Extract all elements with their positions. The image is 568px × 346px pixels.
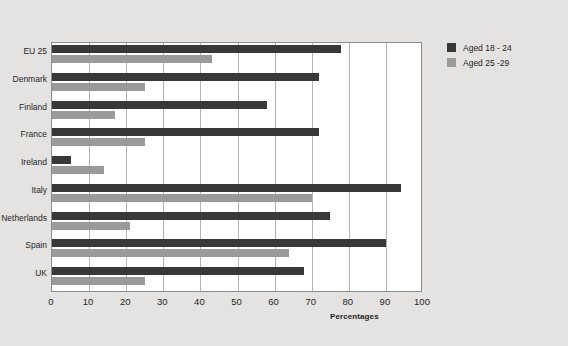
bar-group [52,71,421,99]
chart-title: in different European countries, 2005 [46,0,466,1]
value-tick-label: 40 [194,296,205,308]
bar [52,212,330,220]
value-axis-labels: 0102030405060708090100 [51,296,422,310]
bar [52,111,115,119]
category-label: EU 25 [0,46,47,56]
chart-page: in different European countries, 2005 EU… [0,0,568,346]
bar-group [52,99,421,127]
category-label: Denmark [0,74,47,84]
category-axis-labels: EU 25DenmarkFinlandFranceIrelandItalyNet… [0,42,47,292]
value-tick-label: 0 [48,296,53,308]
plot-area [51,42,422,292]
bar [52,184,401,192]
value-tick-label: 50 [231,296,242,308]
legend-item: Aged 18 - 24 [447,41,512,54]
legend-swatch-icon [447,58,456,67]
bar-group [52,126,421,154]
bar [52,138,145,146]
bar [52,239,386,247]
bar-group [52,43,421,71]
bar [52,128,319,136]
bar [52,267,304,275]
category-label: Finland [0,102,47,112]
bar [52,45,341,53]
bar [52,156,71,164]
bar-group [52,210,421,238]
bar [52,73,319,81]
category-label: France [0,129,47,139]
value-tick-label: 60 [268,296,279,308]
value-tick-label: 90 [380,296,391,308]
bar-group [52,182,421,210]
bar [52,55,212,63]
value-tick-label: 100 [414,296,430,308]
bar-group [52,154,421,182]
value-axis-title: Percentages [330,312,379,321]
legend-label: Aged 25 -29 [463,58,509,68]
bar [52,166,104,174]
category-label: Spain [0,240,47,250]
legend-item: Aged 25 -29 [447,56,512,69]
value-tick-label: 70 [305,296,316,308]
value-tick-label: 80 [343,296,354,308]
bar [52,83,145,91]
bar [52,277,145,285]
bar-group [52,237,421,265]
category-label: Ireland [0,157,47,167]
category-label: UK [0,268,47,278]
legend-label: Aged 18 - 24 [463,43,512,53]
bar [52,194,312,202]
category-label: Italy [0,185,47,195]
bar-group [52,265,421,293]
bar [52,101,267,109]
value-tick-label: 20 [120,296,131,308]
chart-legend: Aged 18 - 24Aged 25 -29 [447,41,512,71]
value-tick-label: 30 [157,296,168,308]
bars-layer [52,43,421,291]
bar [52,222,130,230]
chart-title-line-2: in different European countries, 2005 [46,0,466,1]
value-tick-label: 10 [83,296,94,308]
category-label: Netherlands [0,213,47,223]
bar [52,249,289,257]
legend-swatch-icon [447,43,456,52]
